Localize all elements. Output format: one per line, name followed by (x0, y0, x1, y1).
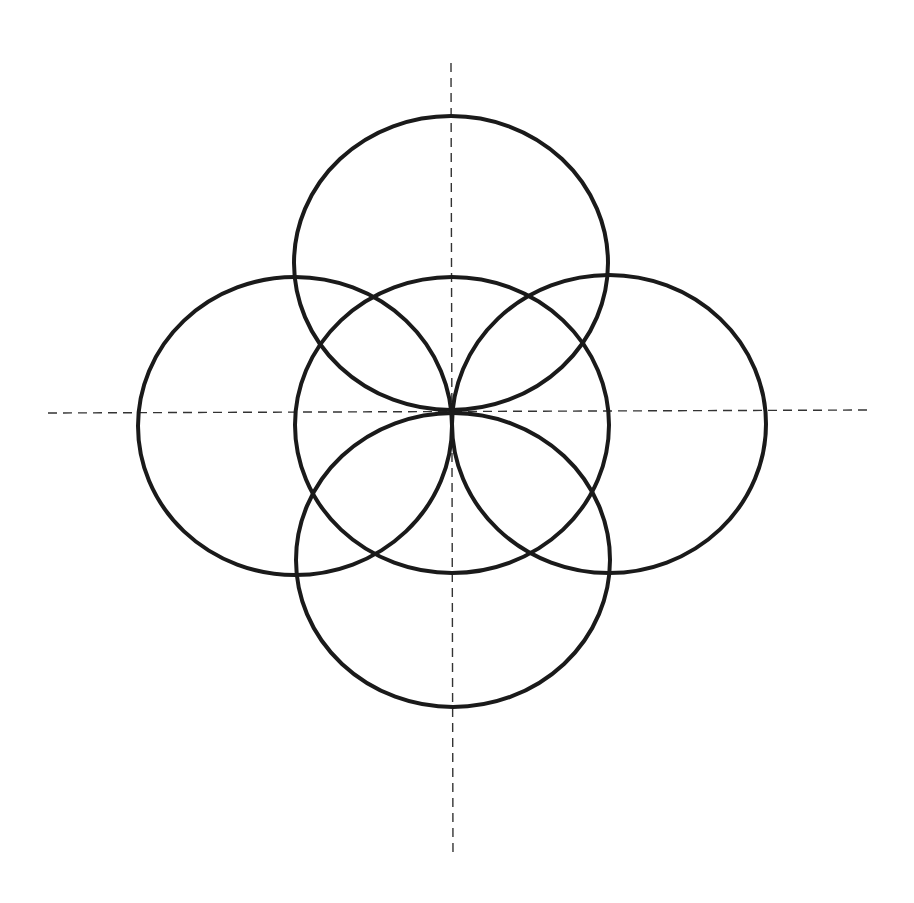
background (0, 0, 914, 903)
circles-diagram (0, 0, 914, 903)
